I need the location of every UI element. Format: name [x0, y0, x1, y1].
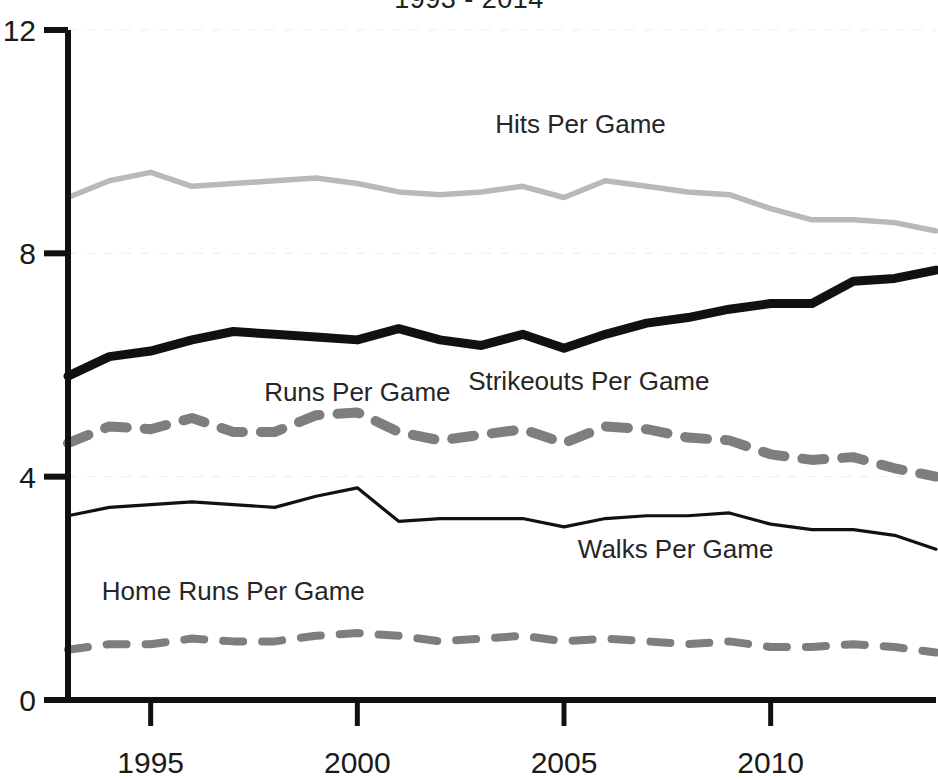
series-line-home-runs-per-game — [68, 633, 936, 653]
y-tick-label: 0 — [19, 684, 36, 717]
series-line-strikeouts-per-game — [68, 270, 936, 376]
series-label-hits-per-game: Hits Per Game — [495, 109, 666, 139]
chart-container: 1993 - 2014 048121995200020052010 Hits P… — [0, 0, 938, 780]
series-line-runs-per-game — [68, 412, 936, 476]
series-label-walks-per-game: Walks Per Game — [578, 534, 774, 564]
series-label-home-runs-per-game: Home Runs Per Game — [102, 576, 365, 606]
series-line-walks-per-game — [68, 488, 936, 549]
x-tick-label: 1995 — [117, 746, 184, 779]
series-label-runs-per-game: Runs Per Game — [264, 377, 450, 407]
y-tick-label: 4 — [19, 461, 36, 494]
x-tick-label: 2000 — [324, 746, 391, 779]
series-label-strikeouts-per-game: Strikeouts Per Game — [468, 366, 709, 396]
chart-plot-area: 048121995200020052010 Hits Per GameStrik… — [0, 0, 938, 780]
y-tick-label: 8 — [19, 237, 36, 270]
x-tick-label: 2010 — [737, 746, 804, 779]
series-line-hits-per-game — [68, 172, 936, 231]
y-tick-label: 12 — [3, 14, 36, 47]
x-tick-label: 2005 — [531, 746, 598, 779]
